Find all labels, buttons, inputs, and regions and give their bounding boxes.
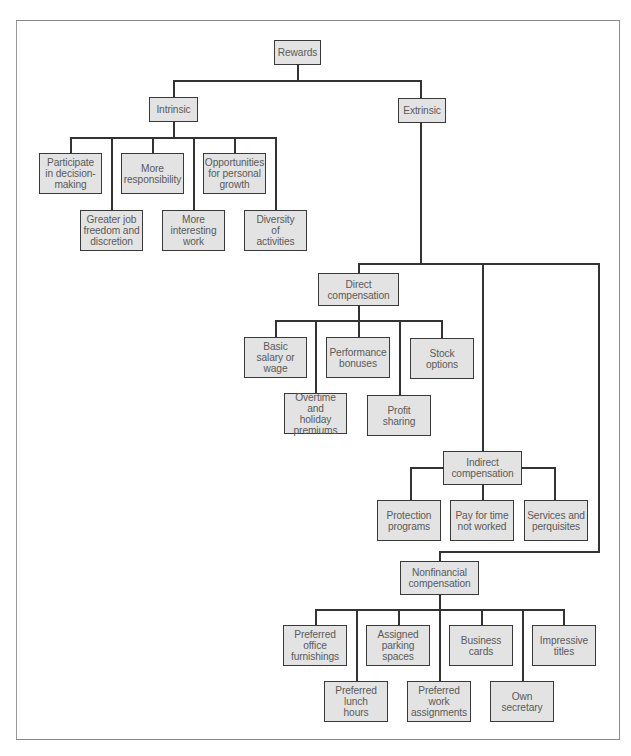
connector [234, 137, 236, 154]
node-intrinsic: Intrinsic [149, 97, 198, 122]
node-overtime-holiday-premiums: Overtime and holiday premiums [284, 393, 347, 434]
connector [356, 609, 358, 682]
connector [173, 121, 175, 138]
node-business-cards: Business cards [449, 625, 513, 666]
connector [420, 80, 422, 98]
node-indirect-compensation: Indirect compensation [443, 451, 522, 485]
node-protection-programs: Protection programs [377, 500, 441, 541]
connector [173, 80, 175, 98]
connector [563, 609, 565, 626]
node-more-interesting-work: More interesting work [162, 210, 225, 251]
connector [193, 137, 195, 211]
connector [439, 594, 441, 610]
connector [410, 467, 412, 501]
connector [439, 551, 600, 553]
node-participate-decision-making: Participate in decision- making [39, 153, 102, 194]
node-impressive-titles: Impressive titles [532, 625, 596, 666]
node-diversity-of-activities: Diversity of activities [244, 210, 307, 251]
connector [522, 609, 524, 682]
connector [315, 320, 317, 394]
connector [275, 320, 277, 338]
connector [173, 80, 422, 82]
connector [482, 263, 484, 452]
connector [481, 609, 483, 626]
node-own-secretary: Own secretary [490, 681, 554, 722]
node-stock-options: Stock options [410, 338, 474, 379]
node-preferred-work-assignments: Preferred work assignments [407, 681, 471, 722]
connector [398, 609, 400, 626]
node-pay-for-time-not-worked: Pay for time not worked [450, 500, 514, 541]
connector [420, 122, 422, 264]
connector [70, 137, 277, 139]
node-more-responsibility: More responsibility [121, 153, 184, 194]
connector [399, 320, 401, 396]
connector [554, 467, 556, 501]
node-preferred-office-furnishings: Preferred office furnishings [283, 625, 347, 666]
node-rewards: Rewards [274, 40, 321, 65]
connector [439, 609, 441, 682]
connector [315, 609, 317, 626]
connector [297, 64, 299, 81]
connector [275, 137, 277, 211]
node-services-perquisites: Services and perquisites [524, 500, 588, 541]
connector [521, 467, 555, 469]
node-opportunities-personal-growth: Opportunities for personal growth [203, 153, 266, 194]
connector [482, 484, 484, 501]
connector [441, 320, 443, 339]
connector [152, 137, 154, 154]
connector [358, 263, 599, 265]
node-assigned-parking-spaces: Assigned parking spaces [366, 625, 430, 666]
node-basic-salary: Basic salary or wage [244, 337, 307, 378]
connector [358, 305, 360, 321]
node-direct-compensation: Direct compensation [318, 273, 399, 306]
node-performance-bonuses: Performance bonuses [326, 337, 390, 378]
connector [111, 137, 113, 211]
node-greater-job-freedom: Greater job freedom and discretion [80, 210, 143, 251]
connector [410, 467, 444, 469]
node-profit-sharing: Profit sharing [367, 395, 431, 436]
connector [598, 263, 600, 552]
node-nonfinancial-compensation: Nonfinancial compensation [400, 561, 479, 595]
node-extrinsic: Extrinsic [398, 98, 446, 123]
node-preferred-lunch-hours: Preferred lunch hours [324, 681, 388, 722]
connector [70, 137, 72, 154]
connector [358, 320, 360, 338]
